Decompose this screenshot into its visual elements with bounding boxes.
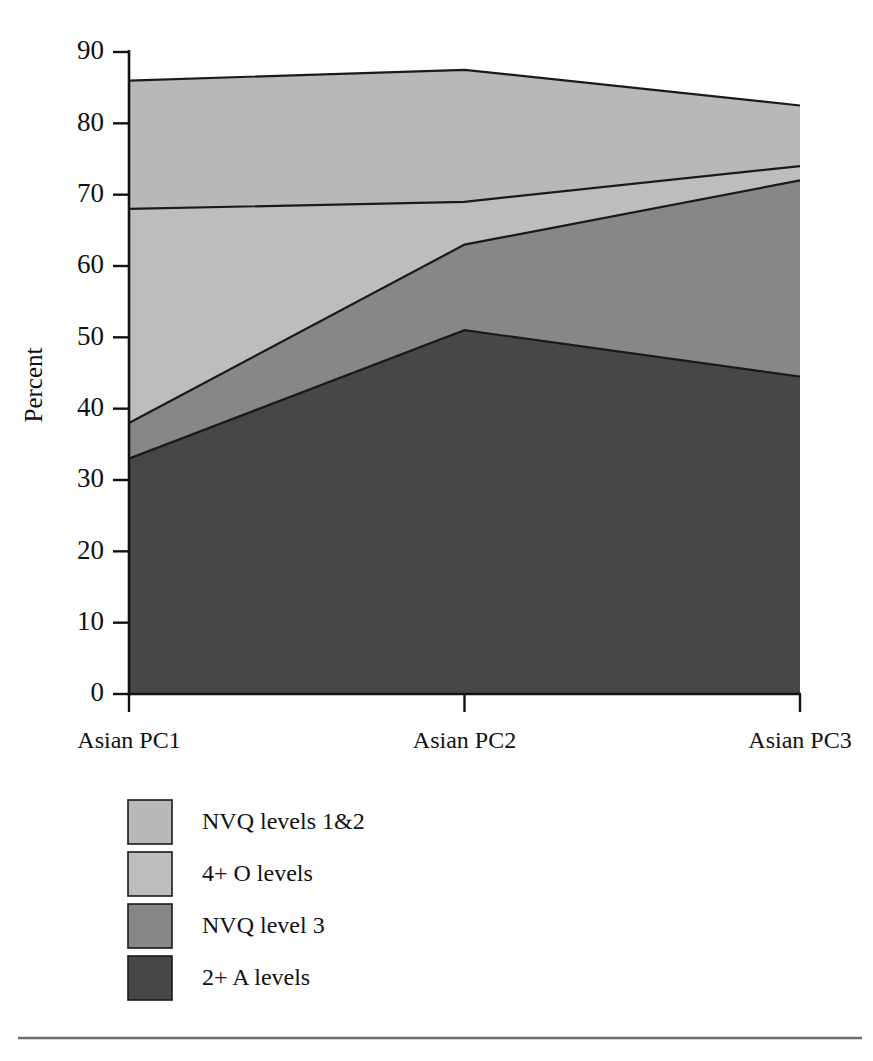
legend-label-1: 4+ O levels: [202, 860, 313, 886]
y-tick-label-60: 60: [77, 249, 104, 279]
x-tick-label-2: Asian PC3: [748, 727, 851, 753]
x-tick-label-1: Asian PC2: [413, 727, 516, 753]
y-tick-label-10: 10: [77, 606, 104, 636]
chart-areas: [129, 70, 800, 694]
y-axis-ticks: 0102030405060708090: [77, 35, 129, 707]
x-tick-label-0: Asian PC1: [77, 727, 180, 753]
y-tick-label-40: 40: [77, 392, 104, 422]
legend-label-0: NVQ levels 1&2: [202, 808, 365, 834]
x-axis-ticks: Asian PC1Asian PC2Asian PC3: [77, 694, 851, 753]
y-tick-label-30: 30: [77, 463, 104, 493]
y-tick-label-20: 20: [77, 535, 104, 565]
y-tick-label-0: 0: [91, 677, 105, 707]
legend-label-2: NVQ level 3: [202, 912, 325, 938]
chart-legend: NVQ levels 1&24+ O levelsNVQ level 32+ A…: [128, 800, 365, 1000]
y-axis-title: Percent: [20, 347, 47, 422]
legend-swatch-3: [128, 956, 172, 1000]
legend-swatch-2: [128, 904, 172, 948]
y-tick-label-70: 70: [77, 178, 104, 208]
y-tick-label-80: 80: [77, 107, 104, 137]
y-tick-label-90: 90: [77, 35, 104, 65]
stacked-area-chart: 0102030405060708090 Asian PC1Asian PC2As…: [0, 0, 873, 1061]
chart-figure: 0102030405060708090 Asian PC1Asian PC2As…: [0, 0, 873, 1061]
legend-swatch-0: [128, 800, 172, 844]
y-tick-label-50: 50: [77, 321, 104, 351]
legend-swatch-1: [128, 852, 172, 896]
legend-label-3: 2+ A levels: [202, 964, 310, 990]
